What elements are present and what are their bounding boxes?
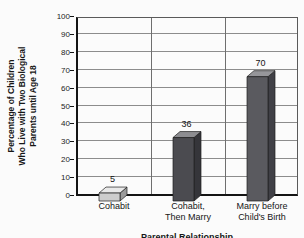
category-divider [151,18,152,194]
y-tick-label-10: 10 [42,173,70,182]
category-divider [225,18,226,194]
y-tick-label-20: 20 [42,155,70,164]
gridline-30 [78,140,297,141]
y-tick-label-30: 30 [42,137,70,146]
gridline-60 [78,87,297,88]
category-label: Cohabit, Then Marry [146,201,230,222]
bar-chart: Percentage of Children Who Live with Two… [0,0,304,238]
gridline-90 [78,33,297,34]
y-tick-label-40: 40 [42,119,70,128]
y-tick-label-60: 60 [42,84,70,93]
y-tick-label-90: 90 [42,30,70,39]
y-tick-mark [70,88,74,89]
y-tick-label-0: 0 [42,191,70,200]
y-tick-mark [70,106,74,107]
category-label: Cohabit [72,201,156,212]
gridline-80 [78,51,297,52]
y-tick-label-50: 50 [42,102,70,111]
gridline-70 [78,69,297,70]
bar-value-label: 5 [98,174,128,184]
y-tick-label-100: 100 [42,12,70,21]
category-label: Marry before Child's Birth [220,201,304,222]
y-tick-mark [70,16,74,17]
gridline-20 [78,158,297,159]
plot-area [76,17,298,196]
y-tick-mark [70,52,74,53]
bar-value-label: 70 [246,58,276,68]
bar-value-label: 36 [172,119,202,129]
y-tick-mark [70,34,74,35]
y-tick-mark [70,141,74,142]
gridline-50 [78,105,297,106]
y-tick-label-80: 80 [42,48,70,57]
y-tick-label-70: 70 [42,66,70,75]
y-tick-mark [70,177,74,178]
x-axis-caption: Parental Relationship [76,232,298,238]
y-tick-mark [70,195,74,196]
y-tick-mark [70,123,74,124]
y-tick-mark [70,159,74,160]
y-tick-mark [70,70,74,71]
